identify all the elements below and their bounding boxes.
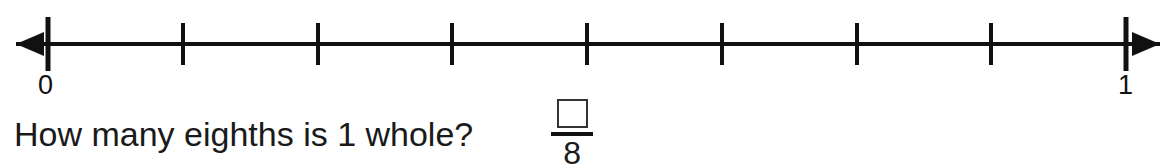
right-arrow-icon <box>1132 32 1160 56</box>
number-line-label-zero: 0 <box>38 72 53 99</box>
answer-numerator-box[interactable] <box>557 99 588 128</box>
fraction-denominator: 8 <box>563 136 581 165</box>
question-row: How many eighths is 1 whole? 8 <box>14 112 593 165</box>
fraction-number-line-worksheet: 0 1 How many eighths is 1 whole? 8 <box>0 0 1171 165</box>
number-line-diagram <box>0 0 1171 100</box>
answer-fraction: 8 <box>551 99 593 165</box>
question-prompt: How many eighths is 1 whole? <box>14 112 473 156</box>
left-arrow-icon <box>16 32 44 56</box>
number-line-label-one: 1 <box>1118 72 1133 99</box>
